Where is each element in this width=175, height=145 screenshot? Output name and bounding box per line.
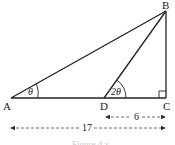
point-label-C: C [163,100,170,112]
side-AB [11,11,166,98]
side-DB [104,11,166,98]
angle-label-2theta: 2θ [111,86,121,97]
figure-caption: Figure 4.x [72,139,109,145]
triangle-diagram: θ 2θ A D C B 6 17 Figure 4.x [0,0,175,145]
angle-label-theta: θ [28,86,33,97]
angle-arc-A [37,84,39,98]
dimension-label-DC: 6 [134,111,139,122]
dimension-label-AC: 17 [82,122,92,133]
diagram-canvas: θ 2θ A D C B 6 17 Figure 4.x [0,0,175,145]
point-label-A: A [3,100,11,112]
point-label-B: B [162,0,169,11]
right-angle-marker [159,91,166,98]
point-label-D: D [100,100,108,112]
